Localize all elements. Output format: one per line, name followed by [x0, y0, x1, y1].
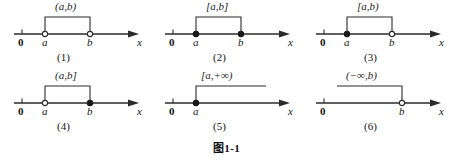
diagram-6-axis-label: x [439, 105, 444, 117]
diagram-2: [a,b] 0 a b x (2) [151, 0, 302, 69]
diagram-1-left-point-label: a [42, 36, 48, 48]
diagram-grid: (a,b) 0 a b x (1) [a,b] 0 a b x (2) [0, 0, 453, 138]
diagram-3-left-point-label: a [344, 36, 350, 48]
diagram-1-right-point-label: b [87, 36, 93, 48]
diagram-6-origin-label: 0 [320, 105, 326, 117]
diagram-1-axis-label: x [137, 36, 142, 48]
diagram-5-axis-label: x [288, 105, 293, 117]
diagram-6: (−∞,b) 0 b x (6) [302, 69, 453, 138]
diagram-4-left-point-label: a [42, 105, 48, 117]
diagram-2-axis-label: x [288, 36, 293, 48]
diagram-3-origin-label: 0 [320, 36, 326, 48]
diagram-4: (a,b] 0 a b x (4) [0, 69, 151, 138]
diagram-3-axis-label: x [439, 36, 444, 48]
diagram-2-index: (2) [213, 51, 226, 63]
diagram-4-axis-label: x [137, 105, 142, 117]
diagram-3-interval-label: [a,b) [357, 0, 379, 12]
diagram-2-left-point-label: a [193, 36, 199, 48]
diagram-6-index: (6) [364, 120, 377, 132]
diagram-2-origin-label: 0 [169, 36, 175, 48]
diagram-5-left-point-label: a [193, 105, 199, 117]
diagram-3-index: (3) [364, 51, 377, 63]
diagram-4-interval-label: (a,b] [55, 69, 77, 81]
diagram-5: [a,+∞) 0 a x (5) [151, 69, 302, 138]
diagram-3: [a,b) 0 a b x (3) [302, 0, 453, 69]
diagram-1-index: (1) [57, 51, 70, 63]
diagram-3-right-point-label: b [389, 36, 395, 48]
diagram-1: (a,b) 0 a b x (1) [0, 0, 151, 69]
diagram-1-origin-label: 0 [18, 36, 24, 48]
diagram-5-interval-label: [a,+∞) [201, 69, 232, 81]
diagram-6-interval-label: (−∞,b) [346, 69, 377, 81]
figure-caption: 图1-1 [0, 139, 453, 155]
diagram-2-interval-label: [a,b] [206, 0, 228, 12]
diagram-2-right-point-label: b [238, 36, 244, 48]
diagram-6-graphic [302, 69, 453, 138]
diagram-4-origin-label: 0 [18, 105, 24, 117]
figure-caption-number: 1-1 [224, 142, 240, 154]
diagram-4-right-point-label: b [87, 105, 93, 117]
diagram-5-index: (5) [213, 120, 226, 132]
interval-notation-figure: (a,b) 0 a b x (1) [a,b] 0 a b x (2) [0, 0, 453, 163]
diagram-6-right-point-label: b [399, 105, 405, 117]
diagram-1-interval-label: (a,b) [55, 0, 76, 12]
figure-caption-symbol: 图 [213, 142, 225, 155]
diagram-4-index: (4) [57, 120, 70, 132]
diagram-5-origin-label: 0 [169, 105, 175, 117]
